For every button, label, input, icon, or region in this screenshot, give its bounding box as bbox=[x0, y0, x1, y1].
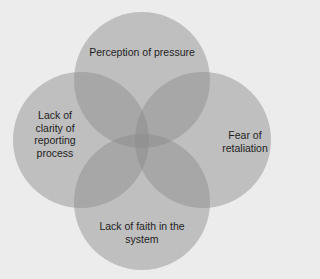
label-perception-of-pressure: Perception of pressure bbox=[72, 46, 212, 59]
label-lack-of-faith: Lack of faith in the system bbox=[82, 220, 202, 245]
label-lack-of-clarity: Lack of clarity of reporting process bbox=[20, 109, 90, 159]
label-fear-of-retaliation: Fear of retaliation bbox=[210, 129, 280, 154]
circle-lack-of-faith bbox=[74, 134, 210, 270]
